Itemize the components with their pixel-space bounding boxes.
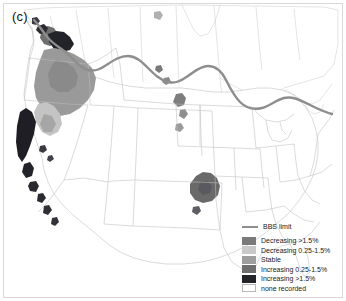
legend-label-none-recorded: none recorded <box>261 284 306 293</box>
panel-label: (c) <box>12 9 28 24</box>
map-figure-panel: (c) <box>0 0 346 301</box>
legend-swatch-stable <box>242 256 256 264</box>
region-bay-area <box>22 162 34 178</box>
region-socal-coast-a <box>37 193 46 203</box>
legend-label-bbs-limit: BBS limit <box>263 221 291 232</box>
legend-swatch-increasing-high <box>242 275 256 283</box>
legend-label-decreasing-high: Decreasing >1.5% <box>261 236 318 245</box>
legend-swatch-decreasing-low <box>242 246 256 254</box>
legend-label-increasing-low: Increasing 0.25-1.5% <box>261 265 327 274</box>
legend-label-stable: Stable <box>261 255 281 264</box>
legend-row-increasing-high: Increasing >1.5% <box>242 274 342 283</box>
legend-row-decreasing-low: Decreasing 0.25-1.5% <box>242 246 342 255</box>
legend-row-stable: Stable <box>242 255 342 264</box>
legend-row-decreasing-high: Decreasing >1.5% <box>242 236 342 245</box>
legend-swatch-increasing-low <box>242 265 256 273</box>
region-norcal-coast <box>16 108 36 162</box>
line-swatch-icon <box>242 226 258 228</box>
legend-swatch-decreasing-high <box>242 237 256 245</box>
legend-row-none-recorded: none recorded <box>242 284 342 293</box>
legend-swatch-none-recorded <box>242 284 256 292</box>
legend-label-increasing-high: Increasing >1.5% <box>261 274 315 283</box>
region-central-coast <box>28 181 39 192</box>
legend-label-decreasing-low: Decreasing 0.25-1.5% <box>261 246 330 255</box>
legend-row-increasing-low: Increasing 0.25-1.5% <box>242 265 342 274</box>
legend-row-bbs-limit: BBS limit <box>242 221 342 232</box>
region-socal-coast-b <box>43 205 52 215</box>
map-legend: BBS limit Decreasing >1.5% Decreasing 0.… <box>242 221 342 293</box>
region-socal-coast-c <box>51 217 59 226</box>
